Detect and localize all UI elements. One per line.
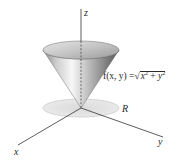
region-label: R (122, 104, 128, 114)
y-exponent: 2 (162, 70, 165, 76)
x-axis-label: x (14, 147, 18, 157)
diagram-canvas (0, 0, 184, 165)
y-axis-label: y (158, 137, 162, 147)
surface-equation: f(x, y) =√x2 + y2 (103, 71, 165, 82)
cone-diagram: z x y R f(x, y) =√x2 + y2 (0, 0, 184, 165)
equation-lhs: f(x, y) = (103, 71, 134, 81)
z-axis-label: z (84, 8, 88, 18)
plus-sign: + (148, 71, 158, 81)
radicand: x2 + y2 (140, 71, 166, 82)
x-axis (18, 108, 81, 145)
